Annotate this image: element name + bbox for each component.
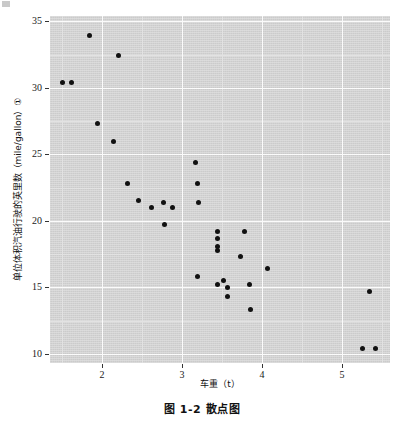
scatter-point <box>248 307 253 312</box>
gridline-minor-vertical <box>302 16 303 363</box>
gridline-horizontal <box>50 88 390 89</box>
scatter-point <box>373 346 378 351</box>
y-tick-mark <box>45 154 49 155</box>
scatter-point <box>162 222 167 227</box>
y-tick-mark <box>45 21 49 22</box>
x-tick-mark <box>342 364 343 368</box>
scatter-point <box>136 198 141 203</box>
y-tick-mark <box>45 287 49 288</box>
x-tick-mark <box>182 364 183 368</box>
gridline-minor-horizontal <box>50 55 390 56</box>
y-tick-mark <box>45 88 49 89</box>
scatter-point <box>215 282 220 287</box>
gridline-minor-vertical <box>142 16 143 363</box>
gridline-horizontal <box>50 287 390 288</box>
scatter-point <box>60 80 65 85</box>
gridline-minor-horizontal <box>50 254 390 255</box>
gridline-vertical <box>262 16 263 363</box>
gridline-horizontal <box>50 154 390 155</box>
scatter-point <box>95 121 100 126</box>
gridline-minor-vertical <box>62 16 63 363</box>
scatter-point <box>215 248 220 253</box>
scatter-point <box>215 229 220 234</box>
scatter-point <box>87 33 92 38</box>
scatter-point <box>215 236 220 241</box>
scatter-point <box>221 278 226 283</box>
scatter-point <box>125 181 130 186</box>
scatter-point <box>116 53 121 58</box>
scatter-point <box>225 294 230 299</box>
y-tick-mark <box>45 354 49 355</box>
scatter-point <box>367 289 372 294</box>
gridline-horizontal <box>50 21 390 22</box>
gridline-vertical <box>102 16 103 363</box>
gridline-minor-horizontal <box>50 121 390 122</box>
y-tick-mark <box>45 221 49 222</box>
scatter-point <box>161 200 166 205</box>
scatter-point <box>193 160 198 165</box>
gridline-horizontal <box>50 354 390 355</box>
gridline-minor-horizontal <box>50 321 390 322</box>
plot-panel <box>50 16 390 363</box>
page-corner-artifact <box>2 1 10 7</box>
scatter-point <box>170 205 175 210</box>
scatter-point <box>238 254 243 259</box>
gridline-minor-vertical <box>382 16 383 363</box>
figure-caption: 图 1-2 散点图 <box>0 400 404 416</box>
x-axis-title: 车重（t） <box>50 377 390 390</box>
scatter-point <box>196 200 201 205</box>
gridline-vertical <box>182 16 183 363</box>
gridline-minor-horizontal <box>50 188 390 189</box>
y-axis-title: 单位体积汽油行驶的英里数（mile/gallon）① <box>10 16 26 363</box>
scatter-point <box>149 205 154 210</box>
scatter-point <box>195 274 200 279</box>
scatter-point <box>225 285 230 290</box>
panel-texture <box>50 16 390 363</box>
scatter-point <box>111 139 116 144</box>
gridline-minor-vertical <box>222 16 223 363</box>
gridline-vertical <box>342 16 343 363</box>
scatter-plot-figure: 101520253035 2345 单位体积汽油行驶的英里数（mile/gall… <box>0 0 404 423</box>
scatter-point <box>195 181 200 186</box>
scatter-point <box>360 346 365 351</box>
x-tick-mark <box>102 364 103 368</box>
scatter-point <box>242 229 247 234</box>
gridline-horizontal <box>50 221 390 222</box>
x-tick-mark <box>262 364 263 368</box>
scatter-point <box>69 80 74 85</box>
scatter-point <box>265 266 270 271</box>
scatter-point <box>247 282 252 287</box>
